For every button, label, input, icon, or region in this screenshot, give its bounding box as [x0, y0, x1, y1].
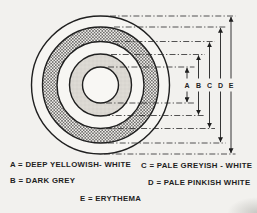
- dimension-label-a: A: [184, 82, 189, 89]
- dimension-label-d: D: [218, 82, 223, 89]
- dimension-labels: A B C D E: [184, 82, 233, 89]
- zone-a-circle: [83, 67, 119, 103]
- legend-item-b: B = DARK GREY: [10, 176, 75, 185]
- dimension-label-e: E: [229, 82, 234, 89]
- legend-item-c: C = PALE GREYISH - WHITE: [141, 161, 252, 170]
- scan-corner-artifact: [227, 197, 257, 213]
- zone-circles: [32, 16, 170, 154]
- figure-concentric-zone-diagram: A B C D E A = DEEP YELLOWISH- WHITE B = …: [0, 0, 257, 213]
- legend-item-d: D = PALE PINKISH WHITE: [148, 178, 250, 187]
- legend-item-a: A = DEEP YELLOWISH- WHITE: [10, 160, 131, 169]
- legend-item-e: E = ERYTHEMA: [80, 194, 141, 203]
- dimension-label-b: B: [196, 82, 201, 89]
- dimension-label-c: C: [207, 82, 212, 89]
